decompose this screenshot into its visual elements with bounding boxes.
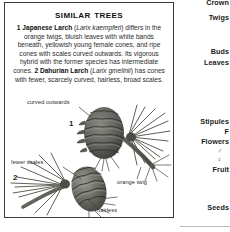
female-symbol-icon: ♀: [217, 156, 222, 163]
field-label-buds: Buds: [211, 47, 229, 56]
callout-curved-outwards: curved outwards: [27, 99, 70, 105]
similar-trees-panel: Similar Trees 1 Japanese Larch (Larix ka…: [4, 2, 174, 218]
callout-hairless: hairless: [97, 207, 117, 213]
field-label-leaves: Leaves: [204, 58, 229, 67]
field-guide-page: Similar Trees 1 Japanese Larch (Larix ka…: [0, 0, 230, 232]
larch-cone-illustration: curved outwards fewer scales orange twig…: [5, 91, 173, 218]
species-marker-1: 1: [69, 119, 73, 128]
similar-trees-paragraph: 1 Japanese Larch (Larix kaempferi) diffe…: [12, 24, 166, 84]
species-marker-2: 2: [13, 173, 17, 182]
panel-title: Similar Trees: [5, 8, 173, 20]
field-label-fruit: Fruit: [213, 165, 229, 174]
field-label-f: F: [225, 127, 230, 136]
field-label-crown: Crown: [206, 0, 229, 7]
column-divider-rule: [180, 226, 230, 227]
field-label-stipules: Stipules: [200, 117, 229, 126]
field-label-column: Crown Twigs Buds Leaves Stipules F Flowe…: [178, 0, 230, 232]
field-label-seeds: Seeds: [207, 203, 229, 212]
field-label-flowers: Flowers: [201, 137, 229, 146]
callout-orange-twig: orange twig: [117, 179, 147, 185]
larch-illustration-svg: [5, 91, 173, 218]
male-symbol-icon: ♂: [217, 147, 222, 154]
field-label-twigs: Twigs: [209, 13, 229, 22]
callout-fewer-scales: fewer scales: [11, 159, 43, 165]
